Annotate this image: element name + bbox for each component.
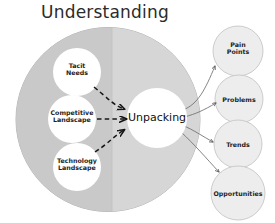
input-circle-competitive-landscape[interactable]: [48, 95, 96, 143]
diagram-canvas: Understanding: [0, 0, 275, 223]
output-circle-problems[interactable]: [215, 75, 263, 123]
input-circle-tacit-needs[interactable]: [53, 48, 101, 96]
output-circle-opportunities[interactable]: [211, 166, 265, 220]
output-circle-pain-points[interactable]: [213, 26, 263, 76]
center-circle-unpacking[interactable]: [127, 88, 187, 148]
diagram-graphics: [0, 0, 275, 223]
output-circle-trends[interactable]: [214, 120, 262, 168]
input-circle-technology-landscape[interactable]: [53, 143, 101, 191]
